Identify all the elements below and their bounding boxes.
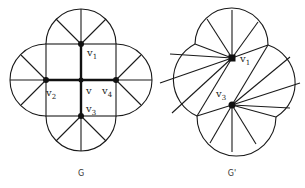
vertex-v3 [229, 102, 236, 109]
vertex-v4 [113, 77, 119, 83]
caption-g: G [78, 169, 84, 178]
right-lobe [268, 45, 295, 117]
vertex-v [79, 78, 84, 83]
vertex-v3 [78, 113, 84, 119]
label-v1: v1 [86, 47, 97, 61]
figure: v1 v2 v v4 v3 G [0, 0, 305, 188]
label-v2: v2 [45, 87, 56, 101]
label-v: v [85, 85, 92, 96]
caption-g-prime: G' [228, 169, 236, 178]
label-v3: v3 [215, 88, 226, 102]
label-v4: v4 [101, 85, 113, 99]
graph-g-prime: v1 v3 G' [160, 8, 300, 178]
vertex-v2 [43, 77, 49, 83]
vertex-v1 [78, 41, 84, 47]
graph-g: v1 v2 v v4 v3 G [10, 9, 152, 178]
label-v3: v3 [85, 103, 96, 117]
label-v1: v1 [239, 53, 250, 67]
bottom-lobe [197, 116, 276, 156]
vertex-v1 [229, 55, 236, 62]
